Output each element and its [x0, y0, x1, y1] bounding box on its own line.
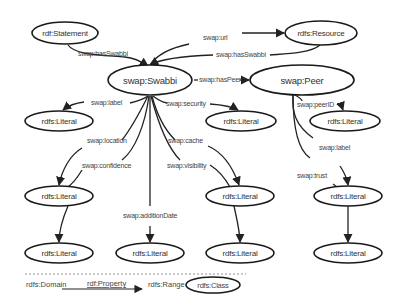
- node-rdfs-resource: rdfs:Resource: [285, 21, 357, 45]
- node-literal-visibility: rdfs:Literal: [206, 243, 274, 263]
- edge-label-location: swap:location: [87, 137, 127, 145]
- edge-label-cache: swap:cache: [168, 137, 203, 145]
- edge-label-peerlabel: swap:label: [319, 144, 351, 152]
- svg-text:rdfs:Literal: rdfs:Literal: [133, 249, 168, 258]
- svg-text:rdfs:Literal: rdfs:Literal: [42, 117, 77, 126]
- node-swap-swabbi: swap:Swabbi: [108, 65, 192, 95]
- svg-text:rdfs:Literal: rdfs:Literal: [224, 117, 259, 126]
- svg-text:rdfs:Literal: rdfs:Literal: [223, 249, 258, 258]
- node-rdf-statement: rdf:Statement: [32, 22, 98, 44]
- svg-text:rdfs:Literal: rdfs:Literal: [328, 117, 363, 126]
- edge-label-url: swap:url: [203, 34, 228, 42]
- node-literal-trust: rdfs:Literal: [314, 243, 382, 263]
- legend-class-node: rdfs:Class: [186, 277, 240, 293]
- edge-label-additiondate: swap:additionDate: [123, 212, 177, 220]
- node-literal-security: rdfs:Literal: [206, 111, 276, 131]
- svg-text:rdfs:Literal: rdfs:Literal: [42, 249, 77, 258]
- edge-label-statement-hasswabbi: swap:hasSwabbi: [78, 50, 128, 58]
- node-literal-cache: rdfs:Literal: [206, 186, 274, 206]
- svg-text:rdfs:Class: rdfs:Class: [197, 281, 229, 290]
- svg-text:rdfs:Literal: rdfs:Literal: [223, 192, 258, 201]
- node-literal-location: rdfs:Literal: [25, 186, 93, 206]
- edge-label-visibility: swap:visibility: [167, 162, 207, 170]
- edge-label-label: swap:label: [91, 99, 123, 107]
- edge-label-trust: swap:trust: [297, 172, 327, 180]
- svg-text:swap:Swabbi: swap:Swabbi: [123, 75, 177, 86]
- node-literal-confidence: rdfs:Literal: [25, 243, 93, 263]
- legend-property: rdf:Property: [87, 279, 126, 288]
- svg-text:rdfs:Literal: rdfs:Literal: [331, 249, 366, 258]
- node-literal-peerid: rdfs:Literal: [310, 111, 380, 131]
- edge-visibility-down: [234, 206, 240, 242]
- svg-text:rdfs:Literal: rdfs:Literal: [42, 192, 77, 201]
- svg-text:rdfs:Literal: rdfs:Literal: [331, 192, 366, 201]
- edge-peerlabel: [340, 166, 348, 185]
- edge-label-confidence: swap:confidence: [82, 162, 131, 170]
- edge-confidence-down: [59, 206, 68, 242]
- node-swap-peer: swap:Peer: [250, 65, 354, 95]
- legend: rdfs:Domain rdf:Property rdfs:Range rdfs…: [26, 277, 240, 293]
- rdf-schema-diagram: swap:hasSwabbi swap:url swap:hasSwabbi s…: [0, 0, 405, 308]
- edge-label-haspeer: swap:hasPeer: [199, 76, 242, 84]
- svg-text:rdf:Statement: rdf:Statement: [42, 29, 88, 38]
- legend-domain: rdfs:Domain: [26, 280, 66, 289]
- svg-text:rdfs:Resource: rdfs:Resource: [297, 29, 345, 38]
- node-literal-label: rdfs:Literal: [25, 111, 93, 131]
- edge-label-resource-hasswabbi: swap:hasSwabbi: [216, 51, 266, 59]
- legend-range: rdfs:Range: [148, 280, 185, 289]
- node-literal-peerlabel: rdfs:Literal: [314, 186, 382, 206]
- edge-label-peerid: swap:peerID: [297, 101, 334, 109]
- edge-label-security: swap:security: [166, 100, 207, 108]
- node-literal-additiondate: rdfs:Literal: [116, 243, 184, 263]
- svg-text:swap:Peer: swap:Peer: [280, 75, 323, 86]
